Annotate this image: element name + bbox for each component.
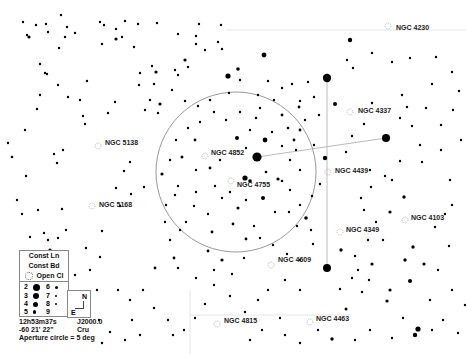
dso-ngc-4349[interactable]: NGC 4349 [337, 226, 379, 235]
star [66, 26, 68, 28]
star [39, 63, 41, 65]
star [219, 159, 221, 161]
star [74, 274, 76, 276]
star [199, 121, 201, 123]
dso-ngc-4609[interactable]: NGC 4609 [268, 256, 311, 268]
star [434, 226, 436, 228]
star [262, 53, 267, 58]
star [86, 80, 88, 82]
star [46, 73, 48, 75]
star [84, 123, 86, 125]
star [239, 79, 241, 81]
star [220, 24, 222, 26]
star [448, 245, 450, 247]
object-label: NGC 4755 [237, 181, 270, 188]
star [413, 333, 417, 337]
star [157, 112, 159, 114]
star [243, 257, 245, 259]
star [133, 46, 135, 48]
dso-ngc-4439[interactable]: NGC 4439 [325, 167, 368, 175]
star [299, 169, 301, 171]
object-label: NGC 5138 [105, 139, 138, 146]
constellation-line [257, 138, 386, 157]
star [99, 256, 101, 258]
star [451, 71, 453, 73]
star [209, 167, 212, 170]
star [217, 41, 219, 43]
deep-sky-objects[interactable]: NGC 4230NGC 4337NGC 5138NGC 4852NGC 4439… [89, 23, 444, 327]
star [310, 229, 312, 231]
star [369, 169, 371, 171]
star [221, 197, 223, 199]
star [239, 111, 241, 113]
star [391, 179, 393, 181]
star [375, 221, 377, 223]
star [442, 319, 444, 321]
star [195, 169, 197, 171]
star-mag-icon [33, 284, 40, 291]
star [261, 196, 265, 200]
star [361, 291, 363, 293]
aperture-circle [156, 92, 316, 252]
star [415, 326, 420, 331]
star [174, 69, 176, 71]
star [319, 183, 321, 185]
star [158, 102, 161, 105]
star [124, 20, 126, 22]
star [11, 156, 14, 159]
star [121, 36, 123, 38]
star [130, 193, 132, 195]
constellation: Cru [77, 326, 89, 334]
mag-4: 4 [24, 300, 38, 308]
star [385, 299, 388, 302]
star [62, 149, 64, 151]
star [85, 247, 87, 249]
open-cluster-icon [268, 262, 274, 268]
dso-ngc-5138[interactable]: NGC 5138 [95, 139, 138, 149]
star [177, 74, 179, 76]
star [304, 216, 308, 220]
star [171, 89, 173, 91]
star [287, 127, 290, 130]
dso-ngc-4337[interactable]: NGC 4337 [347, 107, 391, 115]
star [232, 223, 235, 226]
star [53, 153, 55, 155]
star [281, 145, 283, 147]
star [56, 162, 58, 164]
dso-ngc-4103[interactable]: NGC 4103 [402, 214, 444, 223]
star [123, 170, 125, 172]
star [333, 102, 337, 106]
star [371, 102, 373, 104]
star [298, 106, 301, 109]
star [299, 289, 301, 291]
star [149, 99, 151, 101]
open-cluster-icon [25, 272, 33, 280]
dso-ngc-5168[interactable]: NGC 5168 [89, 201, 132, 209]
star [440, 149, 442, 151]
declination: -60 21' 22" [19, 326, 77, 334]
star [207, 213, 209, 215]
star [289, 159, 291, 161]
star [317, 329, 319, 331]
dso-ngc-4852[interactable]: NGC 4852 [202, 149, 244, 159]
star [352, 67, 354, 69]
star [339, 288, 341, 290]
mag-9: 9 [46, 308, 50, 316]
star [451, 289, 453, 291]
dso-ngc-4815[interactable]: NGC 4815 [214, 317, 257, 327]
star [175, 139, 177, 141]
star [276, 177, 279, 180]
star [296, 225, 298, 227]
star [257, 94, 259, 96]
star [129, 299, 131, 301]
dso-ngc-4463[interactable]: NGC 4463 [307, 315, 349, 325]
star [60, 14, 62, 16]
star [252, 152, 261, 161]
star [357, 269, 359, 271]
legend-const-lines: Const Ln [20, 251, 68, 261]
star [429, 299, 431, 301]
object-label: NGC 4337 [358, 107, 391, 114]
object-label: NGC 4103 [411, 214, 444, 221]
star [299, 342, 301, 344]
star [187, 127, 189, 129]
